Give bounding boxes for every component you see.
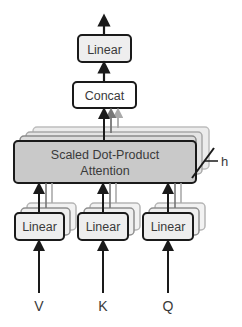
linear-group-k: Linear K [78, 183, 140, 314]
output-linear-box: Linear [78, 35, 131, 62]
multi-head-attention-diagram: Linear Concat Scaled Dot-Product Attenti… [0, 0, 242, 327]
linear-label-v: Linear [22, 220, 57, 234]
output-linear-label: Linear [87, 43, 122, 57]
linear-label-k: Linear [86, 220, 121, 234]
linear-group-q: Linear Q [143, 183, 205, 314]
linear-label-q: Linear [151, 220, 186, 234]
scaled-dot-product-attention-box: Scaled Dot-Product Attention [14, 141, 196, 183]
input-label-k: K [98, 298, 108, 314]
heads-label: h [221, 154, 228, 169]
attention-label-line2: Attention [80, 164, 129, 178]
linear-group-v: Linear V [15, 183, 76, 314]
input-label-v: V [34, 298, 44, 314]
input-label-q: Q [163, 298, 174, 314]
concat-box: Concat [73, 82, 136, 108]
concat-label: Concat [85, 89, 125, 103]
attention-label-line1: Scaled Dot-Product [51, 148, 160, 162]
